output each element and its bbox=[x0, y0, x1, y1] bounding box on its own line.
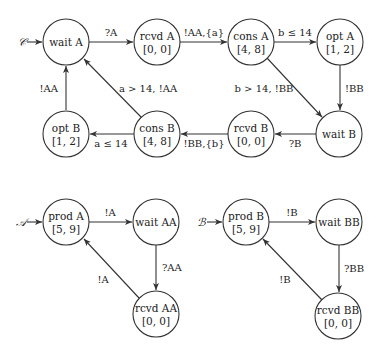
svg-text:wait A: wait A bbox=[49, 36, 83, 48]
svg-text:!BB,{b}: !BB,{b} bbox=[183, 138, 224, 149]
edge-consA-waitB: b > 14, !BB bbox=[235, 58, 322, 117]
edge-prodB-waitBB: !B bbox=[269, 207, 315, 222]
state-rcvd-bb: rcvd BB [0, 0] bbox=[315, 293, 361, 339]
svg-text:opt B: opt B bbox=[52, 122, 81, 134]
svg-text:a ≤ 14: a ≤ 14 bbox=[94, 138, 127, 149]
timed-automata-diagram: 𝒞 ?A !AA,{a} b ≤ 14 b > 14, !BB !BB ?B !… bbox=[0, 0, 378, 349]
svg-text:!B: !B bbox=[279, 274, 290, 285]
state-wait-a: wait A bbox=[43, 19, 89, 65]
svg-text:prod A: prod A bbox=[48, 210, 84, 222]
state-opt-a: opt A [1, 2] bbox=[317, 19, 363, 65]
svg-text:!AA: !AA bbox=[40, 83, 59, 94]
state-wait-aa: wait AA bbox=[133, 199, 179, 245]
edge-optA-waitB: !BB bbox=[340, 65, 364, 110]
svg-text:cons B: cons B bbox=[139, 122, 175, 134]
svg-text:!BB: !BB bbox=[345, 83, 364, 94]
svg-text:[0, 0]: [0, 0] bbox=[324, 317, 352, 329]
svg-text:?BB: ?BB bbox=[344, 263, 364, 274]
state-opt-b: opt B [1, 2] bbox=[43, 111, 89, 157]
svg-text:wait BB: wait BB bbox=[318, 216, 360, 228]
svg-text:rcvd AA: rcvd AA bbox=[135, 302, 177, 314]
svg-text:!A: !A bbox=[97, 274, 109, 285]
automaton-b-label: ℬ bbox=[197, 216, 207, 229]
svg-text:prod B: prod B bbox=[228, 210, 264, 222]
svg-text:[0, 0]: [0, 0] bbox=[143, 43, 171, 55]
svg-text:rcvd BB: rcvd BB bbox=[317, 304, 360, 316]
svg-text:[0, 0]: [0, 0] bbox=[237, 135, 265, 147]
svg-text:cons A: cons A bbox=[233, 30, 269, 42]
edge-waitB-rcvdB: ?B bbox=[275, 134, 316, 149]
svg-text:!A: !A bbox=[104, 207, 116, 218]
svg-text:[4, 8]: [4, 8] bbox=[143, 135, 171, 147]
edge-rcvdBB-prodB: !B bbox=[263, 239, 322, 300]
svg-text:rcvd A: rcvd A bbox=[140, 30, 175, 42]
edge-waitAA-rcvdAA: ?AA bbox=[156, 245, 183, 290]
state-wait-bb: wait BB bbox=[316, 199, 362, 245]
svg-text:[4, 8]: [4, 8] bbox=[237, 43, 265, 55]
state-prod-a: prod A [5, 9] bbox=[43, 199, 89, 245]
svg-text:wait AA: wait AA bbox=[135, 216, 177, 228]
edge-consB-waitA: a > 14, !AA bbox=[84, 59, 178, 117]
edge-rcvdAA-prodA: !A bbox=[84, 239, 139, 298]
state-prod-b: prod B [5, 9] bbox=[223, 199, 269, 245]
svg-text:?B: ?B bbox=[289, 138, 302, 149]
svg-text:b ≤ 14: b ≤ 14 bbox=[278, 27, 312, 38]
edge-prodA-waitAA: !A bbox=[89, 207, 132, 222]
svg-text:[1, 2]: [1, 2] bbox=[326, 43, 354, 55]
edge-rcvdB-consB: !BB,{b} bbox=[181, 134, 228, 149]
state-cons-a: cons A [4, 8] bbox=[228, 19, 274, 65]
svg-text:[5, 9]: [5, 9] bbox=[232, 223, 260, 235]
svg-text:opt A: opt A bbox=[326, 30, 355, 42]
state-rcvd-aa: rcvd AA [0, 0] bbox=[133, 291, 179, 337]
edge-waitA-rcvdA: ?A bbox=[89, 27, 133, 42]
svg-text:[1, 2]: [1, 2] bbox=[52, 135, 80, 147]
svg-text:!B: !B bbox=[286, 207, 297, 218]
svg-text:b > 14, !BB: b > 14, !BB bbox=[235, 83, 294, 94]
svg-text:?AA: ?AA bbox=[162, 262, 183, 273]
edge-consA-optA: b ≤ 14 bbox=[274, 27, 316, 42]
svg-text:a > 14, !AA: a > 14, !AA bbox=[119, 83, 178, 94]
state-rcvd-a: rcvd A [0, 0] bbox=[134, 19, 180, 65]
state-rcvd-b: rcvd B [0, 0] bbox=[228, 111, 274, 157]
edge-waitBB-rcvdBB: ?BB bbox=[339, 245, 364, 292]
svg-text:?A: ?A bbox=[105, 27, 118, 38]
svg-text:[5, 9]: [5, 9] bbox=[52, 223, 80, 235]
edge-rcvdA-consA: !AA,{a} bbox=[180, 27, 227, 42]
edge-optB-waitA: !AA bbox=[40, 66, 66, 110]
svg-text:!AA,{a}: !AA,{a} bbox=[184, 27, 224, 38]
svg-text:wait B: wait B bbox=[322, 128, 356, 140]
state-cons-b: cons B [4, 8] bbox=[134, 111, 180, 157]
svg-text:[0, 0]: [0, 0] bbox=[142, 315, 170, 327]
edge-consB-optB: a ≤ 14 bbox=[90, 134, 134, 149]
svg-text:rcvd B: rcvd B bbox=[234, 122, 269, 134]
state-wait-b: wait B bbox=[316, 111, 362, 157]
